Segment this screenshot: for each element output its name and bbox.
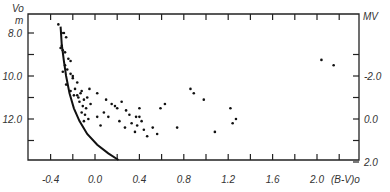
data-point (69, 90, 72, 93)
data-point (120, 101, 123, 104)
data-point (85, 107, 88, 110)
data-point (99, 124, 102, 127)
main-sequence-curve (61, 27, 119, 160)
data-point (114, 105, 117, 108)
x-tick-label: -0.4 (42, 174, 60, 185)
data-point (69, 60, 72, 63)
y-tick-label-right: 0.0 (364, 114, 378, 125)
data-point (62, 49, 65, 52)
data-point (87, 118, 90, 121)
data-point (80, 90, 83, 93)
data-point (63, 32, 66, 35)
data-point (176, 126, 179, 129)
data-point (124, 126, 127, 129)
data-point (202, 98, 205, 101)
data-point (60, 32, 63, 35)
data-point (96, 116, 99, 119)
data-point (78, 101, 81, 104)
data-point (134, 131, 137, 134)
data-point (156, 133, 159, 136)
data-point (138, 107, 141, 110)
data-point (116, 107, 119, 110)
y-tick-label-left: 12.0 (3, 114, 23, 125)
data-point (65, 36, 68, 39)
y-tick-label-left: 8.0 (8, 28, 22, 39)
hr-diagram: -0.40.00.40.81.21.62.08.010.012.0-2.00.0… (0, 0, 390, 192)
data-point (214, 131, 217, 134)
data-point (103, 111, 106, 114)
y-unit-left: m (15, 15, 23, 26)
data-point (138, 116, 141, 119)
axis-ticks (28, 14, 359, 162)
x-tick-label: 0.0 (88, 174, 102, 185)
data-point (73, 94, 76, 97)
data-point (76, 81, 79, 84)
x-tick-label: 0.8 (177, 174, 191, 185)
data-point (64, 51, 67, 54)
axes-box (28, 14, 359, 160)
y-label-left: Vo (12, 3, 24, 14)
data-point (72, 77, 75, 80)
data-point (140, 120, 143, 123)
y-tick-label-left: 10.0 (3, 71, 23, 82)
y-tick-label-right: -2.0 (364, 71, 382, 82)
data-point (86, 96, 89, 99)
data-point (229, 107, 232, 110)
data-point (164, 103, 167, 106)
data-point (89, 103, 92, 106)
data-point (107, 116, 110, 119)
y-label-right: MV (363, 11, 379, 22)
data-point (143, 128, 146, 131)
data-point (136, 124, 139, 127)
data-point (77, 96, 80, 99)
data-point (80, 111, 83, 114)
data-point (235, 118, 238, 121)
data-point (125, 109, 128, 112)
data-point (66, 68, 69, 71)
x-tick-label: 2.0 (309, 174, 324, 185)
data-point (64, 64, 67, 67)
data-point (83, 98, 86, 101)
data-point (146, 135, 149, 138)
data-point (84, 113, 87, 116)
x-label: (B-V)o (331, 174, 360, 185)
data-point (69, 73, 72, 76)
data-point (59, 47, 62, 50)
data-point (105, 98, 108, 101)
data-point (57, 23, 60, 26)
data-point (130, 122, 133, 125)
x-tick-label: 1.6 (266, 174, 280, 185)
data-point (83, 120, 86, 123)
data-point (65, 83, 68, 86)
data-point (231, 122, 234, 125)
tick-labels: -0.40.00.40.81.21.62.08.010.012.0-2.00.0… (3, 28, 382, 185)
data-point (128, 113, 131, 116)
data-point (159, 107, 162, 110)
data-point (192, 92, 195, 95)
data-point (62, 70, 65, 73)
plot-frame (28, 14, 359, 160)
data-point (67, 58, 70, 61)
data-point (189, 88, 192, 91)
x-tick-label: 1.2 (221, 174, 235, 185)
data-points (57, 23, 335, 137)
data-point (135, 116, 138, 119)
data-point (118, 120, 121, 123)
data-point (151, 126, 154, 129)
data-point (88, 88, 91, 91)
data-point (110, 103, 113, 106)
y-tick-label-right: 2.0 (363, 157, 378, 168)
data-point (74, 88, 77, 91)
data-point (96, 92, 99, 95)
data-point (320, 59, 323, 62)
data-point (81, 105, 84, 108)
x-tick-label: 0.4 (132, 174, 146, 185)
data-point (332, 64, 335, 67)
